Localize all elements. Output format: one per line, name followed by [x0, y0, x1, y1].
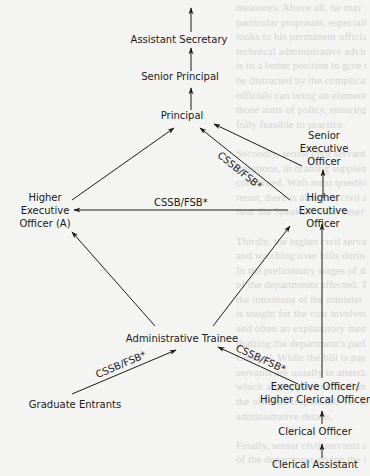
node-label-line: Graduate Entrants [29, 398, 121, 411]
node-senior-executive-officer: SeniorExecutiveOfficer [300, 129, 349, 168]
node-executive-officer-hco: Executive Officer/Higher Clerical Office… [260, 380, 370, 406]
node-label-line: Executive [300, 142, 349, 155]
node-principal: Principal [161, 109, 204, 122]
node-label-line: Higher [299, 191, 348, 204]
node-label-line: Executive [299, 204, 348, 217]
node-senior-principal: Senior Principal [141, 70, 219, 83]
node-label-line: Senior Principal [141, 70, 219, 83]
node-label-line: Clerical Assistant [272, 458, 358, 471]
node-label-line: Assistant Secretary [131, 33, 228, 46]
node-label-line: Officer [299, 217, 348, 230]
node-label-line: Senior [300, 129, 349, 142]
node-clerical-officer: Clerical Officer [278, 425, 352, 438]
node-assistant-secretary: Assistant Secretary [131, 33, 228, 46]
node-graduate-entrants: Graduate Entrants [29, 398, 121, 411]
node-label-line: Administrative Trainee [126, 332, 238, 345]
node-label-line: Clerical Officer [278, 425, 352, 438]
node-higher-executive-officer-a: HigherExecutiveOfficer (A) [19, 191, 70, 230]
node-label-line: Officer (A) [19, 217, 70, 230]
node-administrative-trainee: Administrative Trainee [126, 332, 238, 345]
edge-administrative-trainee-to-higher-executive-officer-a [72, 232, 155, 326]
node-higher-executive-officer: HigherExecutiveOfficer [299, 191, 348, 230]
node-clerical-assistant: Clerical Assistant [272, 458, 358, 471]
edge-label: CSSB/FSB* [154, 197, 208, 208]
edge-higher-executive-officer-a-to-principal [72, 128, 174, 200]
node-label-line: Principal [161, 109, 204, 122]
node-label-line: Executive Officer/ [260, 380, 370, 393]
edge-administrative-trainee-to-higher-executive-officer [213, 226, 290, 326]
node-label-line: Officer [300, 155, 349, 168]
node-label-line: Higher Clerical Officer [260, 393, 370, 406]
node-label-line: Higher [19, 191, 70, 204]
node-label-line: Executive [19, 204, 70, 217]
